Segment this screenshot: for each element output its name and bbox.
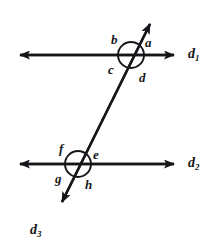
line-label-d1-letter: d xyxy=(188,46,195,61)
line-label-d3: d3 xyxy=(30,223,42,237)
geometry-figure: b a c d f e g h d1 d2 d3 xyxy=(0,0,218,244)
line-label-d3-letter: d xyxy=(30,222,37,237)
angle-label-h: h xyxy=(85,178,92,191)
angle-label-b: b xyxy=(111,33,118,46)
line-label-d1-subscript: 1 xyxy=(195,53,200,63)
line-label-d2: d2 xyxy=(188,156,200,170)
line-label-d1: d1 xyxy=(188,47,200,61)
line-label-d2-letter: d xyxy=(188,155,195,170)
geometry-canvas xyxy=(0,0,218,244)
angle-label-g: g xyxy=(55,172,62,185)
angle-label-f: f xyxy=(59,142,63,155)
line-label-d2-subscript: 2 xyxy=(195,162,200,172)
angle-label-d: d xyxy=(139,71,146,84)
line-label-d3-subscript: 3 xyxy=(37,229,42,239)
transversal-line-lower-arrow xyxy=(62,24,150,202)
angle-label-e: e xyxy=(93,148,99,161)
angle-label-c: c xyxy=(108,63,114,76)
angle-label-a: a xyxy=(145,36,152,49)
